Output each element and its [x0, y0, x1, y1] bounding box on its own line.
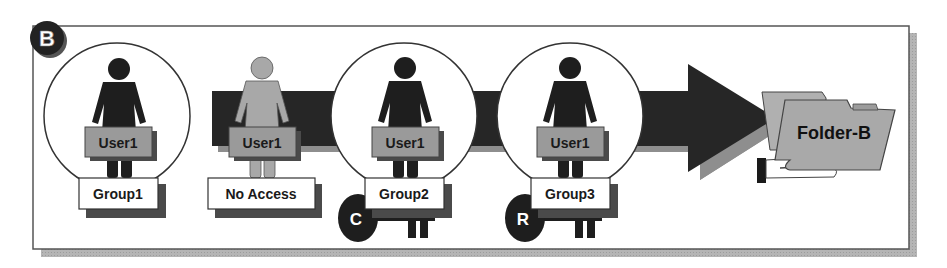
- badge-letter: B: [39, 26, 55, 51]
- group-label: No Access: [225, 186, 296, 202]
- group-label: Group2: [379, 186, 429, 202]
- group-label: Group3: [545, 186, 595, 202]
- group-label: Group1: [93, 186, 143, 202]
- user-label: User1: [99, 135, 138, 151]
- user-label: User1: [386, 135, 425, 151]
- access-diagram: User1 Group1 User1 No Access User1: [0, 0, 947, 268]
- user-label: User1: [243, 135, 282, 151]
- folder-label: Folder-B: [797, 123, 871, 143]
- user-label: User1: [551, 135, 590, 151]
- key-letter: R: [517, 210, 529, 229]
- folder-in-hand-icon: Folder-B: [757, 92, 895, 183]
- key-letter: C: [350, 210, 362, 229]
